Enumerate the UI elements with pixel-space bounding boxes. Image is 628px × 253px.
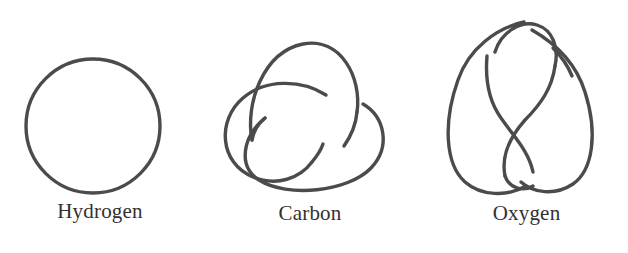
figure-eight-knot-icon [425, 0, 628, 200]
caption-hydrogen: Hydrogen [0, 201, 200, 222]
figure-carbon: Carbon [205, 0, 415, 253]
figure-oxygen: Oxygen [425, 0, 628, 253]
caption-carbon: Carbon [205, 203, 415, 224]
figure-hydrogen: Hydrogen [0, 0, 200, 253]
caption-oxygen: Oxygen [425, 203, 628, 224]
knot-diagram-plate: Hydrogen Carbon [0, 0, 628, 253]
trefoil-knot-icon [205, 0, 415, 200]
unknot-circle-icon [0, 0, 200, 200]
